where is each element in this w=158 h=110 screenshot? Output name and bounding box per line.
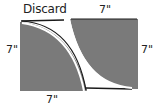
- right-panel-bottom-edge: [86, 88, 132, 89]
- left-dimension-label: 7": [6, 44, 18, 55]
- right-dimension-label: 7": [141, 44, 153, 55]
- discard-label: Discard: [23, 3, 67, 15]
- diagram-canvas: [0, 0, 158, 110]
- bottom-dimension-label: 7": [46, 94, 58, 105]
- top-dimension-label: 7": [99, 4, 111, 15]
- left-panel-top-edge: [21, 20, 64, 21]
